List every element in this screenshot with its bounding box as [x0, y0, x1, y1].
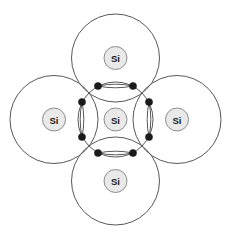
electron-dot	[145, 133, 152, 140]
nucleus-bottom: Si	[104, 170, 127, 193]
nucleus-top: Si	[104, 47, 127, 70]
bond-group-bottom	[94, 149, 136, 156]
nucleus-left: Si	[43, 108, 66, 131]
bond-lens-top	[98, 84, 133, 88]
bond-lens-bottom	[98, 151, 133, 155]
electron-dot	[129, 82, 136, 89]
bond-lens-left	[80, 102, 84, 137]
electron-dot	[78, 133, 85, 140]
nucleus-label: Si	[172, 115, 181, 126]
nucleus-label: Si	[111, 115, 120, 126]
bond-lens-right	[147, 102, 151, 137]
bond-group-left	[78, 98, 85, 140]
nucleus-label: Si	[49, 115, 58, 126]
electron-dot	[129, 149, 136, 156]
nucleus-label: Si	[111, 176, 120, 187]
electron-dot	[94, 82, 101, 89]
nucleus-right: Si	[166, 108, 189, 131]
electron-dot	[94, 149, 101, 156]
diagram-canvas: Si Si Si Si Si	[0, 0, 231, 239]
bond-group-right	[145, 98, 152, 140]
bond-group-top	[94, 82, 136, 89]
nucleus-label: Si	[111, 53, 120, 64]
silicon-bonding-diagram: Si Si Si Si Si	[0, 0, 231, 239]
electron-dot	[145, 98, 152, 105]
electron-dot	[78, 98, 85, 105]
nucleus-center: Si	[104, 108, 127, 131]
